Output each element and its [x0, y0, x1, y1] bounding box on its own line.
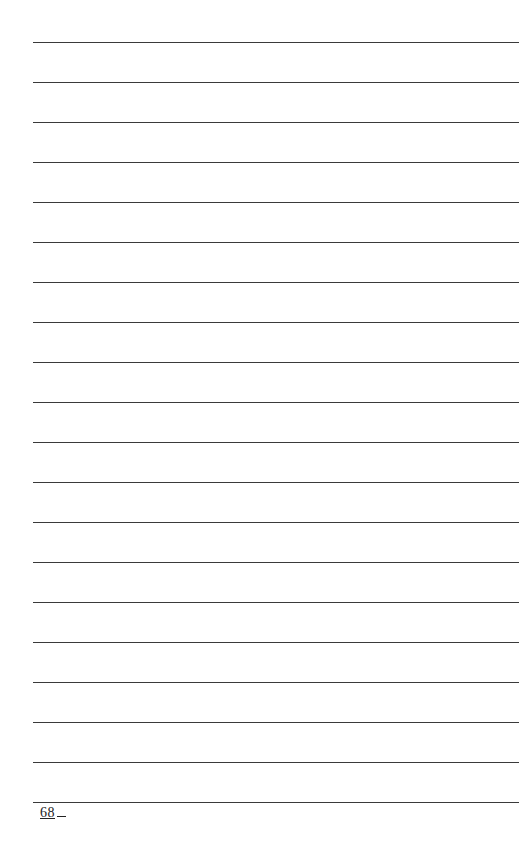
ruled-line: [33, 762, 519, 763]
page-number-underline: [57, 815, 66, 817]
ruled-line: [33, 122, 519, 123]
ruled-line: [33, 322, 519, 323]
ruled-line: [33, 442, 519, 443]
ruled-line: [33, 82, 519, 83]
ruled-line: [33, 722, 519, 723]
ruled-line: [33, 162, 519, 163]
ruled-line: [33, 642, 519, 643]
ruled-line: [33, 242, 519, 243]
ruled-line: [33, 682, 519, 683]
ruled-line: [33, 482, 519, 483]
ruled-line: [33, 802, 519, 803]
page-number-text: 68: [40, 805, 55, 820]
ruled-line: [33, 522, 519, 523]
ruled-line: [33, 282, 519, 283]
ruled-line: [33, 202, 519, 203]
ruled-line: [33, 362, 519, 363]
page-number: 68: [40, 805, 66, 821]
ruled-line: [33, 402, 519, 403]
ruled-line: [33, 602, 519, 603]
ruled-line: [33, 562, 519, 563]
ruled-line: [33, 42, 519, 43]
